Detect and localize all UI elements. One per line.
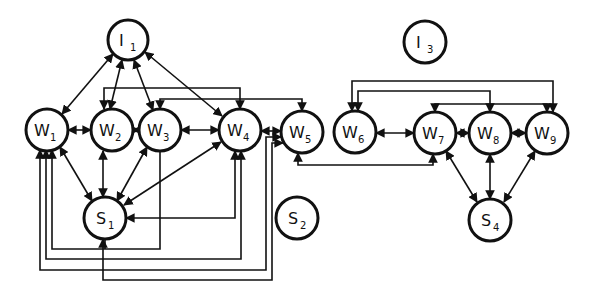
edge-w4-s1: [124, 142, 221, 205]
node-w4: W4: [219, 109, 261, 151]
svg-text:W: W: [227, 121, 243, 140]
svg-text:W: W: [422, 124, 438, 143]
edge-w6-w8-top: [358, 91, 490, 112]
node-w5: W5: [281, 111, 323, 153]
edge-w6-w9-top: [352, 81, 553, 112]
edge-w1-w4-bottom: [46, 150, 241, 259]
svg-text:4: 4: [493, 222, 499, 233]
svg-text:9: 9: [550, 135, 556, 146]
node-w8: W8: [469, 112, 511, 154]
svg-text:I: I: [416, 33, 421, 52]
svg-text:5: 5: [305, 134, 311, 145]
svg-text:W: W: [342, 123, 358, 142]
svg-text:1: 1: [130, 42, 136, 53]
edge-w5-w7: [298, 153, 433, 165]
node-w6: W6: [334, 111, 376, 153]
svg-text:3: 3: [427, 44, 433, 55]
svg-text:3: 3: [163, 132, 169, 143]
node-w2: W2: [91, 109, 133, 151]
svg-text:4: 4: [243, 132, 249, 143]
svg-text:1: 1: [108, 220, 114, 231]
node-w9: W9: [526, 112, 568, 154]
edge-i1-w3: [134, 60, 153, 110]
svg-text:I: I: [119, 31, 124, 50]
svg-text:W: W: [99, 121, 115, 140]
edge-w1-s1: [60, 147, 92, 201]
edges: [40, 52, 553, 280]
edge-w4-s1-side: [126, 151, 235, 218]
edge-w3-w5-top: [160, 99, 302, 111]
svg-text:2: 2: [115, 132, 121, 143]
svg-text:W: W: [147, 121, 163, 140]
svg-text:S: S: [481, 211, 491, 230]
svg-text:8: 8: [493, 135, 499, 146]
edge-w7-s4: [446, 151, 477, 202]
svg-text:W: W: [289, 123, 305, 142]
svg-text:S: S: [288, 209, 298, 228]
svg-text:W: W: [534, 124, 550, 143]
svg-text:7: 7: [438, 135, 444, 146]
node-w7: W7: [414, 112, 456, 154]
node-s2: S2: [276, 197, 318, 239]
svg-text:1: 1: [50, 132, 56, 143]
svg-text:W: W: [34, 121, 50, 140]
svg-text:W: W: [477, 124, 493, 143]
node-s4: S4: [469, 199, 511, 241]
edge-w9-s4: [504, 151, 535, 202]
edge-i1-w4: [145, 52, 222, 116]
nodes: I1 W1 W2 W3 W4 W5 S1 S2 I3 W6 W7 W8 W9 S…: [26, 20, 568, 241]
svg-text:6: 6: [358, 134, 364, 145]
edge-i1-w1: [62, 54, 113, 114]
svg-text:2: 2: [300, 220, 306, 231]
node-w1: W1: [26, 109, 68, 151]
node-i1: I1: [108, 20, 148, 60]
edge-i1-w2: [110, 60, 122, 109]
node-i3: I3: [404, 21, 446, 63]
node-s1: S1: [84, 197, 126, 239]
svg-text:S: S: [96, 209, 106, 228]
network-diagram: I1 W1 W2 W3 W4 W5 S1 S2 I3 W6 W7 W8 W9 S…: [0, 0, 591, 297]
node-w3: W3: [139, 109, 181, 151]
